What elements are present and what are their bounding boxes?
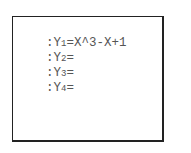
y4-expression: =: [66, 81, 74, 95]
y4-label: :Y: [46, 81, 61, 95]
y1-expression: =X^3-X+1: [66, 36, 126, 50]
calculator-screen: :Y1=X^3-X+1 :Y2= :Y3= :Y4=: [12, 16, 164, 142]
y4-entry[interactable]: :Y4=: [16, 67, 74, 110]
